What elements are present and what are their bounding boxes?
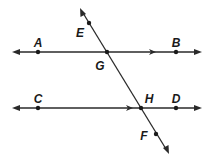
point-c xyxy=(36,106,40,110)
point-g xyxy=(105,50,109,54)
arrowhead-left-icon xyxy=(12,105,20,111)
label-d: D xyxy=(172,92,181,106)
point-f xyxy=(154,132,158,136)
point-a xyxy=(36,50,40,54)
label-c: C xyxy=(34,92,43,106)
label-a: A xyxy=(33,36,43,50)
point-e xyxy=(87,21,91,25)
label-f: F xyxy=(140,129,148,143)
point-b xyxy=(174,50,178,54)
label-g: G xyxy=(95,59,104,73)
point-d xyxy=(174,106,178,110)
label-e: E xyxy=(76,26,85,40)
point-h xyxy=(139,106,143,110)
arrowhead-right-icon xyxy=(194,49,202,55)
arrowhead-left-icon xyxy=(12,49,20,55)
label-b: B xyxy=(172,36,181,50)
arrowhead-right-icon xyxy=(194,105,202,111)
parallel-lines-transversal-diagram: A B G C D H E F xyxy=(0,0,213,163)
label-h: H xyxy=(145,92,154,106)
